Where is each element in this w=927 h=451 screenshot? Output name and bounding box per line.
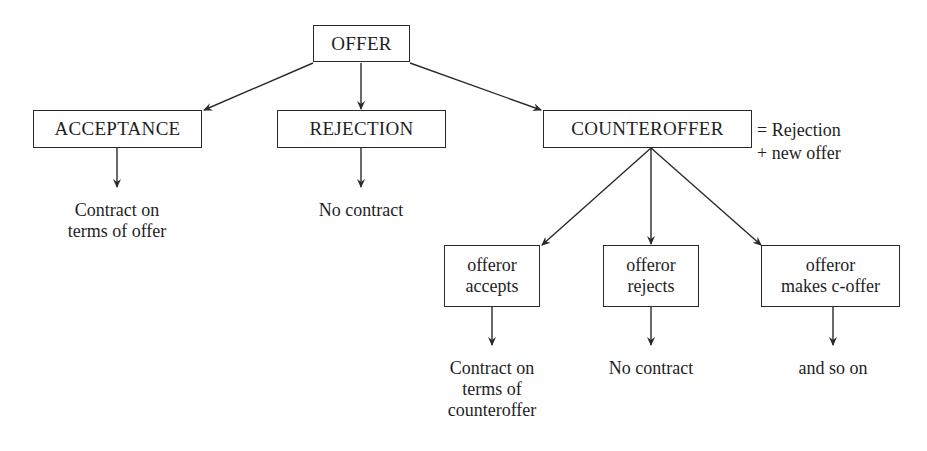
outcome-line: No contract — [581, 358, 721, 379]
node-acceptance: ACCEPTANCE — [33, 110, 202, 148]
node-counteroffer: COUNTEROFFER — [543, 110, 752, 148]
node-rejection: REJECTION — [277, 110, 446, 148]
node-offer: OFFER — [313, 25, 410, 62]
outcome-line: No contract — [281, 200, 441, 221]
outcome-offeror-rejects: No contract — [581, 358, 721, 379]
outcome-offeror-makes-coffer: and so on — [763, 358, 903, 379]
node-rejection-label: REJECTION — [309, 118, 413, 140]
arrow-counteroffer-coffer — [651, 148, 761, 245]
node-line: rejects — [628, 276, 675, 297]
annotation-line-1: = Rejection — [757, 119, 841, 142]
node-line: offeror — [467, 255, 517, 276]
node-line: accepts — [466, 276, 519, 297]
counteroffer-annotation: = Rejection + new offer — [757, 119, 841, 165]
outcome-line: terms of — [422, 379, 562, 400]
outcome-rejection: No contract — [281, 200, 441, 221]
node-counteroffer-label: COUNTEROFFER — [571, 118, 723, 140]
outcome-line: terms of offer — [37, 221, 197, 242]
node-offeror-accepts: offeror accepts — [444, 245, 540, 307]
arrow-offer-acceptance — [204, 63, 313, 110]
annotation-line-2: + new offer — [757, 142, 841, 165]
node-offeror-rejects: offeror rejects — [603, 245, 699, 307]
outcome-acceptance: Contract on terms of offer — [37, 200, 197, 242]
node-offer-label: OFFER — [331, 33, 392, 55]
outcome-line: counteroffer — [422, 400, 562, 421]
outcome-line: Contract on — [422, 358, 562, 379]
node-line: offeror — [806, 255, 856, 276]
node-acceptance-label: ACCEPTANCE — [54, 118, 180, 140]
node-line: makes c-offer — [781, 276, 880, 297]
arrow-counteroffer-accepts — [542, 148, 651, 245]
outcome-offeror-accepts: Contract on terms of counteroffer — [422, 358, 562, 421]
node-line: offeror — [626, 255, 676, 276]
node-offeror-makes-coffer: offeror makes c-offer — [761, 245, 900, 307]
outcome-line: and so on — [763, 358, 903, 379]
arrow-offer-counteroffer — [410, 63, 541, 110]
outcome-line: Contract on — [37, 200, 197, 221]
